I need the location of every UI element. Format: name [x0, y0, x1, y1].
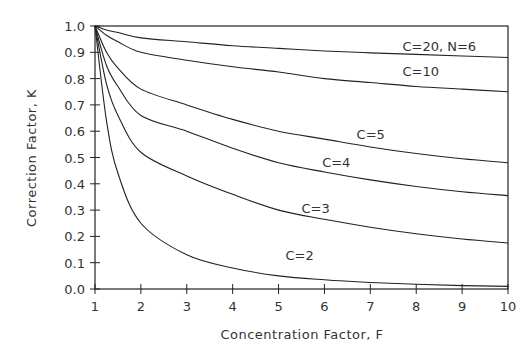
chart: 0.00.10.20.30.40.50.60.70.80.91.0 123456… [0, 0, 530, 364]
y-tick-label: 0.2 [64, 229, 85, 244]
y-tick-label: 1.0 [64, 19, 85, 34]
x-tick-label: 9 [458, 299, 466, 314]
x-tick-label: 7 [366, 299, 374, 314]
curve-label: C=10 [402, 64, 439, 79]
y-tick-label: 0.6 [64, 124, 85, 139]
y-tick-label: 0.7 [64, 98, 85, 113]
curve-labels: C=20, N=6C=10C=5C=4C=3C=2 [285, 39, 476, 263]
y-tick-label: 0.5 [64, 151, 85, 166]
curve-label: C=5 [357, 127, 385, 142]
y-tick-label: 0.0 [64, 282, 85, 297]
curve-c-10 [95, 26, 508, 92]
y-tick-label: 0.3 [64, 203, 85, 218]
x-tick-label: 3 [183, 299, 191, 314]
x-tick-label: 6 [320, 299, 328, 314]
x-tick-label: 4 [229, 299, 237, 314]
x-tick-label: 10 [500, 299, 517, 314]
y-tick-label: 0.1 [64, 256, 85, 271]
y-tick-label: 0.8 [64, 72, 85, 87]
y-tick-label: 0.4 [64, 177, 85, 192]
curve-label: C=2 [285, 248, 313, 263]
y-axis-title: Correction Factor, K [24, 89, 39, 227]
x-tick-label: 2 [137, 299, 145, 314]
curve-label: C=4 [322, 155, 350, 170]
x-axis-title: Concentration Factor, F [220, 327, 383, 342]
curve-label: C=3 [302, 201, 330, 216]
x-tick-label: 5 [274, 299, 282, 314]
x-tick-label: 1 [91, 299, 99, 314]
y-tick-label: 0.9 [64, 45, 85, 60]
curve-label: C=20, N=6 [402, 39, 476, 54]
x-tick-label: 8 [412, 299, 420, 314]
